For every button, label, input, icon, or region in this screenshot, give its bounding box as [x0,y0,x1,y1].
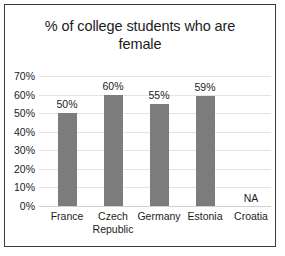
xtick-label-croatia: Croatia [222,210,280,223]
bar-value-czech-republic: 60% [90,80,136,92]
bar-value-germany: 55% [136,89,182,101]
bar-value-france: 50% [44,98,90,110]
bar-estonia[interactable] [196,96,215,206]
ytick-label-30: 30% [1,144,35,156]
ytick-label-60: 60% [1,89,35,101]
chart-title-line-2: female [15,35,265,53]
ytick-label-50: 50% [1,107,35,119]
xtick-label-czech-republic-line-2: Republic [84,223,142,236]
ytick-label-20: 20% [1,163,35,175]
ytick-label-40: 40% [1,126,35,138]
chart-title: % of college students who are female [15,17,265,53]
ytick-label-0: 0% [1,200,35,212]
bar-value-estonia: 59% [182,81,228,93]
ytick-label-70: 70% [1,70,35,82]
bar-czech-republic[interactable] [104,95,123,206]
plot-area: 70% 60% 50% 40% 30% 20% 10% 0% 50% 60% 5… [39,76,271,206]
chart-title-line-1: % of college students who are [15,17,265,35]
bar-value-croatia-na: NA [228,192,274,204]
ytick-label-10: 10% [1,181,35,193]
chart-frame: % of college students who are female 70%… [4,4,276,247]
x-axis-line [39,206,271,207]
gridline-70 [39,76,271,77]
xtick-label-croatia-line-1: Croatia [222,210,280,223]
bar-france[interactable] [58,113,77,206]
bar-germany[interactable] [150,104,169,206]
